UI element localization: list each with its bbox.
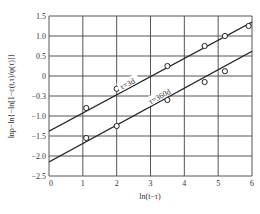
y-tick-label: −0.3 [31, 92, 46, 101]
data-point-circle [84, 135, 89, 140]
y-tick-label: 0.5 [36, 52, 46, 61]
chart: 0123456 1.51.00.50−0.3−1.0−1.5−2.0−2.5 l… [0, 0, 260, 214]
y-tick-labels: 1.51.00.50−0.3−1.0−1.5−2.0−2.5 [31, 12, 46, 181]
data-point-circle [202, 43, 207, 48]
data-point-circle [165, 63, 170, 68]
x-tick-label: 0 [49, 179, 53, 188]
x-tick-label: 5 [216, 179, 220, 188]
data-point-circle [222, 33, 227, 38]
y-tick-label: −2.5 [31, 172, 46, 181]
x-tick-label: 4 [182, 179, 186, 188]
x-tick-label: 6 [250, 179, 254, 188]
data-points [84, 23, 252, 140]
x-tick-labels: 0123456 [49, 179, 254, 188]
x-axis-label: ln(t−τ) [139, 192, 161, 201]
data-point-circle [222, 69, 227, 74]
y-tick-label: 1.0 [36, 32, 46, 41]
x-tick-label: 1 [81, 179, 85, 188]
y-tick-label: 1.5 [36, 12, 46, 21]
data-point-circle [202, 79, 207, 84]
y-tick-label: −2.0 [31, 152, 46, 161]
data-point-circle [246, 23, 251, 28]
y-tick-label: −1.0 [31, 112, 46, 121]
y-tick-label: 0 [42, 72, 46, 81]
data-point-circle [84, 105, 89, 110]
x-tick-label: 3 [149, 179, 153, 188]
y-axis-label: lnρ−ln{−ln[1−ε(t,τ)/φ(τ)]} [7, 53, 16, 138]
y-tick-label: −1.5 [31, 132, 46, 141]
x-tick-label: 2 [115, 179, 119, 188]
data-point-circle [114, 123, 119, 128]
